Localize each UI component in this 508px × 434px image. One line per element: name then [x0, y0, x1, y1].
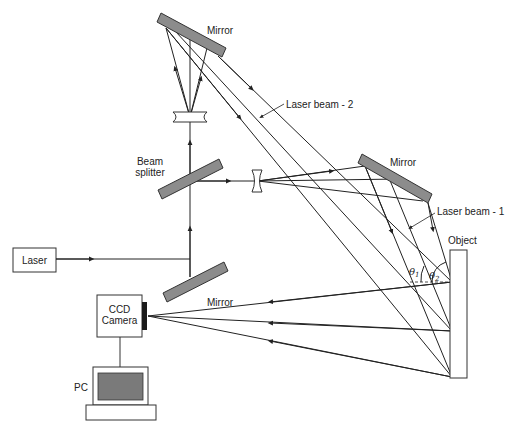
setup-diagram: Laser — [0, 0, 508, 434]
pc: PC — [74, 367, 156, 420]
mirror-top: Mirror — [157, 13, 234, 57]
ccd-label-2: Camera — [102, 315, 138, 326]
laser-beam-2-label: Laser beam - 2 — [286, 99, 354, 110]
lens-top — [173, 112, 207, 122]
laser-beam-1-label: Laser beam - 1 — [437, 206, 505, 217]
laser-source: Laser — [13, 248, 56, 272]
mirror-right: Mirror — [358, 154, 432, 203]
mirror-top-label: Mirror — [207, 25, 234, 36]
laser-label: Laser — [22, 255, 48, 266]
angle-annotation: θ1 θ2 — [409, 262, 452, 283]
mirror-bottom-label: Mirror — [207, 297, 234, 308]
laser-beam-2-callout: Laser beam - 2 — [261, 99, 354, 117]
mirror-right-label: Mirror — [390, 157, 417, 168]
ccd-camera: CCD Camera — [97, 295, 147, 337]
beam-splitter-label-1: Beam — [137, 156, 163, 167]
object-label: Object — [448, 235, 477, 246]
beam-splitter: Beam splitter — [135, 156, 223, 199]
ccd-label-1: CCD — [109, 304, 131, 315]
theta-2-label: θ2 — [429, 270, 440, 283]
object-to-ccd-rays — [148, 282, 452, 377]
mirror-bottom: Mirror — [163, 262, 234, 308]
beam-splitter-label-2: splitter — [135, 167, 165, 178]
pc-label: PC — [74, 382, 88, 393]
diagram-canvas: Laser — [0, 0, 508, 434]
object: Object — [448, 235, 477, 378]
laser-beam-1-callout: Laser beam - 1 — [410, 206, 505, 228]
